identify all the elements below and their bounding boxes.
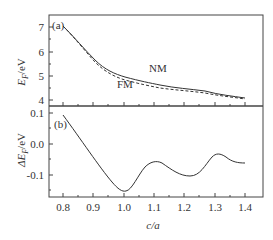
y-axis-a bbox=[49, 27, 53, 100]
x-tick-1.3: 1.3 bbox=[208, 201, 222, 213]
y-axis-title-a: EF/eV bbox=[15, 58, 30, 87]
series-label-fm: FM bbox=[117, 78, 133, 90]
x-axis-b bbox=[63, 193, 245, 197]
y-tick-a-7: 7 bbox=[39, 21, 45, 33]
y-tick-b-0.1: 0.1 bbox=[30, 107, 44, 119]
x-tick-1.1: 1.1 bbox=[147, 201, 161, 213]
y-tick-a-4: 4 bbox=[39, 94, 45, 106]
panel-label-b: (b) bbox=[54, 118, 67, 131]
y-tick-b-0.0: 0.0 bbox=[30, 138, 44, 150]
x-tick-1.0: 1.0 bbox=[117, 201, 131, 213]
series-label-nm: NM bbox=[149, 62, 167, 74]
x-tick-1.2: 1.2 bbox=[177, 201, 191, 213]
x-tick-1.4: 1.4 bbox=[238, 201, 252, 213]
figure: 7 6 5 4 (a) NM FM EF/eV 0.1 0.0 -0.1 bbox=[0, 0, 273, 240]
y-tick-a-5: 5 bbox=[39, 70, 45, 82]
panel-label-a: (a) bbox=[52, 19, 65, 32]
y-tick-b-minus-0.1: -0.1 bbox=[27, 169, 44, 181]
x-tick-0.9: 0.9 bbox=[86, 201, 100, 213]
y-axis-b bbox=[49, 113, 53, 190]
y-axis-title-b: ΔEF/eV bbox=[15, 133, 30, 168]
x-axis-title: c/a bbox=[146, 219, 160, 231]
x-tick-0.8: 0.8 bbox=[56, 201, 70, 213]
y-tick-a-6: 6 bbox=[39, 46, 45, 58]
series-delta-ef-line bbox=[63, 115, 245, 191]
